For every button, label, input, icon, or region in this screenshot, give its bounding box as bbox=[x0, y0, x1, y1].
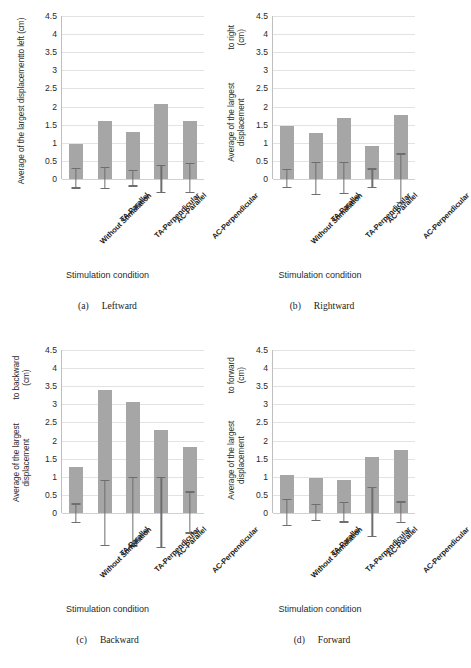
y-axis-tick-label: 0.5 bbox=[256, 156, 268, 166]
y-axis-title: Average of the largest displacementto ba… bbox=[2, 350, 40, 520]
bar-slot bbox=[92, 16, 118, 179]
y-axis-title: Average of the largest displacementto le… bbox=[2, 16, 40, 186]
bar[interactable] bbox=[337, 118, 351, 179]
x-axis-title: Stimulation condition bbox=[215, 270, 429, 280]
bar[interactable] bbox=[98, 390, 112, 513]
bar-slot bbox=[177, 350, 203, 513]
bar[interactable] bbox=[280, 126, 294, 179]
bar[interactable] bbox=[183, 121, 197, 179]
y-axis-tick-label: 3.5 bbox=[45, 381, 57, 391]
y-axis-title-line2: to backward (cm) bbox=[11, 350, 32, 405]
x-axis-tick-label-text: AC-Perpendicular bbox=[421, 525, 471, 575]
y-axis-title-line1: Average of the largest displacement bbox=[226, 400, 247, 520]
y-axis-title-line1: Average of the largest displacement bbox=[11, 405, 32, 520]
panel-caption-tag: (b) bbox=[290, 300, 301, 311]
y-axis-tick-label: 1 bbox=[52, 472, 57, 482]
error-bar-cap-top bbox=[128, 477, 137, 478]
error-bar-cap-top bbox=[339, 162, 348, 163]
error-bar-cap-top bbox=[396, 153, 405, 154]
error-bar-cap-top bbox=[283, 499, 292, 500]
bar-group bbox=[273, 16, 415, 179]
bar[interactable] bbox=[394, 450, 408, 513]
bar[interactable] bbox=[337, 480, 351, 513]
panel-d: Average of the largest displacementto fo… bbox=[215, 334, 429, 668]
y-axis-tick-label: 1.5 bbox=[45, 120, 57, 130]
bar-slot bbox=[360, 16, 386, 179]
x-axis-tick-label: AC-Perpendicular bbox=[403, 518, 465, 536]
panel-caption: (c)Backward bbox=[0, 634, 215, 645]
error-bar-cap-top bbox=[311, 504, 320, 505]
error-bar-cap-top bbox=[185, 491, 194, 492]
x-axis-tick-label-text: AC-Perpendicular bbox=[421, 191, 471, 241]
y-axis-tick-label: 4.5 bbox=[45, 11, 57, 21]
y-axis-tick-label: 0 bbox=[52, 174, 57, 184]
x-axis-title: Stimulation condition bbox=[0, 604, 215, 614]
bar-slot bbox=[149, 350, 175, 513]
bar-slot bbox=[120, 16, 146, 179]
bar[interactable] bbox=[154, 430, 168, 513]
bar[interactable] bbox=[365, 146, 379, 179]
panel-a: Average of the largest displacementto le… bbox=[0, 0, 215, 334]
bar[interactable] bbox=[154, 104, 168, 179]
y-axis-title-line2: to left (cm) bbox=[16, 18, 27, 56]
bar[interactable] bbox=[98, 121, 112, 179]
bar[interactable] bbox=[394, 115, 408, 179]
x-axis-tick-labels: Without StimulationTA-ParallelTA-Perpend… bbox=[273, 516, 415, 602]
x-axis-tick-label: AC-Perpendicular bbox=[403, 184, 465, 202]
y-axis-title-line2: to forward (cm) bbox=[226, 350, 247, 400]
bar[interactable] bbox=[280, 475, 294, 513]
y-axis-tick-label: 3 bbox=[263, 399, 268, 409]
bar-slot bbox=[331, 16, 357, 179]
bar-slot bbox=[63, 350, 89, 513]
y-axis-tick-label: 4.5 bbox=[256, 11, 268, 21]
bar[interactable] bbox=[126, 402, 140, 513]
y-axis-tick-label: 2 bbox=[263, 436, 268, 446]
y-axis-tick-label: 4.5 bbox=[45, 345, 57, 355]
error-bar-cap-top bbox=[311, 162, 320, 163]
y-axis-title-line1: Average of the largest displacement bbox=[16, 56, 27, 185]
y-axis-tick-label: 3.5 bbox=[256, 47, 268, 57]
error-bar-cap-top bbox=[72, 503, 81, 504]
bar-slot bbox=[360, 350, 386, 513]
error-bar-cap-top bbox=[339, 502, 348, 503]
error-bar-cap-top bbox=[100, 167, 109, 168]
y-axis-tick-label: 2 bbox=[52, 436, 57, 446]
y-axis-tick-label: 3 bbox=[52, 65, 57, 75]
bar[interactable] bbox=[309, 133, 323, 179]
bar[interactable] bbox=[365, 457, 379, 513]
bar-slot bbox=[331, 350, 357, 513]
bar[interactable] bbox=[309, 478, 323, 513]
panel-caption: (a)Leftward bbox=[0, 300, 215, 311]
y-axis-tick-label: 4 bbox=[52, 363, 57, 373]
y-axis-tick-label: 0 bbox=[263, 174, 268, 184]
y-axis-tick-label: 1 bbox=[263, 472, 268, 482]
bar-group bbox=[62, 16, 204, 179]
bar-slot bbox=[388, 350, 414, 513]
panel-caption-tag: (c) bbox=[76, 634, 87, 645]
y-axis-tick-label: 2.5 bbox=[45, 83, 57, 93]
x-axis-title: Stimulation condition bbox=[215, 604, 429, 614]
bar[interactable] bbox=[126, 132, 140, 179]
bar-group bbox=[62, 350, 204, 513]
error-bar-cap-top bbox=[157, 165, 166, 166]
bar-slot bbox=[120, 350, 146, 513]
error-bar-cap-top bbox=[157, 477, 166, 478]
bar-slot bbox=[274, 16, 300, 179]
y-axis-tick-label: 0.5 bbox=[45, 156, 57, 166]
bar[interactable] bbox=[183, 447, 197, 513]
bar[interactable] bbox=[69, 467, 83, 513]
x-axis-title: Stimulation condition bbox=[0, 270, 215, 280]
x-axis-tick-labels: Without StimulationTA-ParallelTA-Perpend… bbox=[62, 182, 204, 268]
y-axis-tick-label: 1 bbox=[263, 138, 268, 148]
panel-caption: (d)Forward bbox=[215, 634, 429, 645]
error-bar-cap-top bbox=[283, 169, 292, 170]
panel-caption-text: Rightward bbox=[314, 300, 355, 311]
y-axis-tick-label: 4.5 bbox=[256, 345, 268, 355]
bar-slot bbox=[303, 16, 329, 179]
y-axis-tick-label: 2 bbox=[263, 102, 268, 112]
panel-caption-text: Backward bbox=[100, 634, 139, 645]
x-axis-tick-labels: Without StimulationTA-ParallelTA-Perpend… bbox=[62, 516, 204, 602]
error-bar-cap-top bbox=[100, 480, 109, 481]
bar[interactable] bbox=[69, 144, 83, 179]
